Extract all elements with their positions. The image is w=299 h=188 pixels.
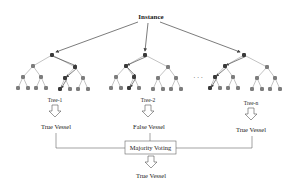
tree-node bbox=[34, 86, 38, 90]
tree-node bbox=[127, 86, 131, 90]
ellipsis: · · · bbox=[193, 74, 203, 81]
tree-node bbox=[16, 86, 20, 90]
tree-node bbox=[208, 86, 212, 90]
tree-node bbox=[86, 87, 90, 91]
tree-node bbox=[81, 76, 85, 80]
tree-node bbox=[31, 64, 35, 68]
tree-node bbox=[58, 87, 62, 91]
tree-node bbox=[63, 76, 67, 80]
tree-node bbox=[26, 86, 30, 90]
tree-node bbox=[68, 87, 72, 91]
tree-node bbox=[169, 87, 173, 91]
tree-node bbox=[161, 87, 165, 91]
tree-node bbox=[179, 87, 183, 91]
tree-node bbox=[218, 86, 222, 90]
down-arrow-icon bbox=[142, 105, 154, 117]
tree-n-label: Tree-n bbox=[244, 100, 259, 106]
tree-node bbox=[255, 76, 259, 80]
tree-node bbox=[242, 53, 246, 57]
tree-node bbox=[278, 87, 282, 91]
down-arrow-icon bbox=[245, 108, 257, 120]
tree-node bbox=[174, 76, 178, 80]
tree-node bbox=[137, 86, 141, 90]
tree-node bbox=[124, 64, 128, 68]
tree-2 bbox=[109, 53, 183, 91]
tree-n-output: True Vessel bbox=[236, 126, 266, 133]
tree-node bbox=[151, 87, 155, 91]
tree-node bbox=[265, 65, 269, 69]
instance-label: Instance bbox=[138, 13, 163, 21]
tree-node bbox=[119, 86, 123, 90]
tree-node bbox=[156, 76, 160, 80]
down-arrow-icons bbox=[49, 105, 257, 168]
tree-node bbox=[223, 64, 227, 68]
final-output: True Vessel bbox=[136, 172, 166, 179]
tree-3 bbox=[208, 53, 282, 91]
instance-arrows bbox=[56, 22, 240, 52]
tree-node bbox=[236, 86, 240, 90]
tree-node bbox=[76, 87, 80, 91]
tree-node bbox=[143, 53, 147, 57]
tree-node bbox=[44, 86, 48, 90]
tree-node bbox=[109, 86, 113, 90]
tree-node bbox=[260, 87, 264, 91]
tree-node bbox=[273, 76, 277, 80]
tree-node bbox=[39, 75, 43, 79]
decision-trees bbox=[16, 53, 282, 91]
tree-node bbox=[114, 75, 118, 79]
tree-node bbox=[50, 53, 54, 57]
majority-voting-label: Majority Voting bbox=[130, 144, 172, 151]
tree-node bbox=[166, 65, 170, 69]
tree-node bbox=[73, 65, 77, 69]
tree-2-label: Tree-2 bbox=[141, 97, 156, 103]
tree-1-output: True Vessel bbox=[41, 123, 71, 130]
tree-1-label: Tree-1 bbox=[48, 97, 63, 103]
down-arrow-icon bbox=[145, 156, 157, 168]
tree-node bbox=[226, 86, 230, 90]
tree-node bbox=[231, 75, 235, 79]
tree-node bbox=[213, 75, 217, 79]
tree-node bbox=[21, 75, 25, 79]
down-arrow-icon bbox=[49, 105, 61, 117]
tree-2-output: False Vessel bbox=[133, 123, 165, 130]
tree-node bbox=[250, 87, 254, 91]
tree-node bbox=[132, 75, 136, 79]
random-forest-diagram: Instance · · · Tree-1 Tree-2 Tree-n True… bbox=[0, 0, 299, 188]
tree-1 bbox=[16, 53, 90, 91]
tree-node bbox=[268, 87, 272, 91]
